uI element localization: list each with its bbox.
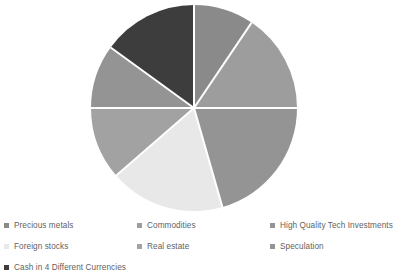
legend-swatch-icon bbox=[4, 265, 9, 270]
pie-chart-figure: Precious metalsCommoditiesHigh Quality T… bbox=[0, 0, 403, 278]
legend-item-label: High Quality Tech Investments bbox=[280, 221, 393, 231]
legend-swatch-icon bbox=[4, 223, 9, 228]
legend-item[interactable]: Real estate bbox=[133, 236, 266, 257]
legend-item[interactable]: Precious metals bbox=[0, 215, 133, 236]
legend-item[interactable]: Cash in 4 Different Currencies bbox=[0, 257, 133, 278]
legend-swatch-icon bbox=[4, 244, 9, 249]
legend-item-label: Foreign stocks bbox=[14, 242, 68, 252]
legend-item-label: Precious metals bbox=[14, 221, 73, 231]
legend-swatch-icon bbox=[270, 244, 275, 249]
chart-legend: Precious metalsCommoditiesHigh Quality T… bbox=[0, 215, 403, 278]
legend-swatch-icon bbox=[270, 223, 275, 228]
legend-item-label: Cash in 4 Different Currencies bbox=[14, 263, 126, 273]
pie-plot-area bbox=[0, 0, 403, 212]
legend-item-label: Commodities bbox=[147, 221, 196, 231]
legend-item[interactable]: Speculation bbox=[266, 236, 403, 257]
legend-item[interactable]: High Quality Tech Investments bbox=[266, 215, 403, 236]
legend-swatch-icon bbox=[137, 223, 142, 228]
legend-item[interactable]: Commodities bbox=[133, 215, 266, 236]
legend-swatch-icon bbox=[137, 244, 142, 249]
pie-svg bbox=[0, 0, 403, 212]
legend-item-label: Real estate bbox=[147, 242, 189, 252]
legend-item-label: Speculation bbox=[280, 242, 324, 252]
legend-item[interactable]: Foreign stocks bbox=[0, 236, 133, 257]
